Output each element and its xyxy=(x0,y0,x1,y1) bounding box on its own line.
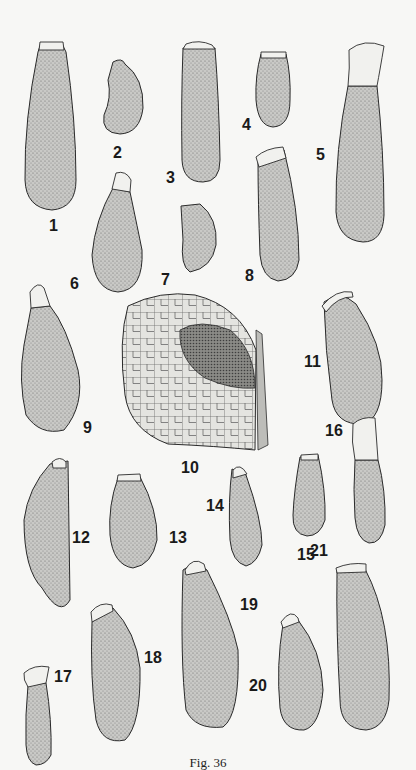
specimen-body xyxy=(258,150,299,281)
specimen-2 xyxy=(104,60,143,134)
specimen-label: 4 xyxy=(242,117,251,133)
specimen-body xyxy=(324,296,382,424)
specimen-label: 12 xyxy=(72,530,90,546)
specimen-label: 10 xyxy=(181,460,199,476)
specimen-body xyxy=(279,620,323,730)
specimen-9 xyxy=(21,285,79,432)
specimen-15 xyxy=(293,454,325,536)
specimen-cap xyxy=(52,459,66,469)
specimen-10 xyxy=(122,294,268,450)
specimen-body xyxy=(229,469,262,566)
specimen-4 xyxy=(256,52,290,127)
specimen-illustrations xyxy=(0,0,416,770)
specimen-body xyxy=(337,569,390,730)
specimen-13 xyxy=(110,474,157,568)
specimen-cap xyxy=(352,418,378,460)
specimen-7 xyxy=(181,204,216,272)
specimen-cap xyxy=(183,42,215,49)
specimen-cap xyxy=(30,285,50,308)
figure-plate: 123456789101112131415161718192021 Fig. 3… xyxy=(0,0,416,770)
specimen-cap xyxy=(112,172,131,192)
specimen-12 xyxy=(24,459,70,607)
specimen-5 xyxy=(336,43,384,242)
specimen-6 xyxy=(92,172,142,292)
specimen-cap xyxy=(261,52,286,58)
specimen-label: 13 xyxy=(169,530,187,546)
specimen-body xyxy=(26,683,51,765)
specimen-label: 7 xyxy=(161,272,170,288)
specimen-label: 11 xyxy=(304,354,321,370)
specimen-body xyxy=(181,204,216,272)
specimen-17 xyxy=(24,666,51,765)
specimen-cap xyxy=(348,43,384,86)
specimen-14 xyxy=(229,467,262,566)
specimen-21 xyxy=(336,564,389,731)
specimen-19 xyxy=(182,561,238,727)
specimen-label: 21 xyxy=(310,543,328,559)
specimen-cap xyxy=(301,454,318,460)
specimen-label: 6 xyxy=(70,276,79,292)
specimen-body xyxy=(182,48,220,182)
specimen-label: 1 xyxy=(49,218,58,234)
specimen-body xyxy=(21,306,79,431)
specimen-3 xyxy=(182,42,220,182)
specimen-body xyxy=(256,54,290,127)
specimen-cap xyxy=(39,42,64,50)
specimen-body xyxy=(182,565,238,727)
specimen-label: 19 xyxy=(240,597,258,613)
specimen-label: 18 xyxy=(144,650,162,666)
specimen-label: 5 xyxy=(316,147,325,163)
specimen-16 xyxy=(352,418,385,543)
specimen-8 xyxy=(256,147,299,281)
specimen-body xyxy=(293,455,325,536)
specimen-label: 16 xyxy=(325,423,343,439)
specimen-18 xyxy=(91,604,140,741)
specimen-20 xyxy=(279,614,323,730)
specimen-11 xyxy=(322,292,382,424)
figure-caption: Fig. 36 xyxy=(0,755,416,770)
membrane-fin xyxy=(256,330,268,450)
specimen-body xyxy=(92,188,142,292)
specimen-body xyxy=(92,608,141,741)
specimen-label: 20 xyxy=(249,678,267,694)
specimen-label: 3 xyxy=(166,170,175,186)
specimen-body xyxy=(24,461,70,607)
specimen-body xyxy=(25,46,76,210)
specimen-body xyxy=(104,60,143,134)
specimen-body xyxy=(110,477,157,568)
specimen-1 xyxy=(25,42,76,210)
specimen-label: 14 xyxy=(206,498,224,514)
specimen-label: 17 xyxy=(54,669,72,685)
specimen-body xyxy=(354,460,385,543)
specimen-label: 8 xyxy=(245,268,254,284)
specimen-label: 2 xyxy=(113,145,122,161)
specimen-label: 9 xyxy=(83,420,92,436)
specimen-cap xyxy=(117,474,141,481)
specimen-cap xyxy=(336,564,366,574)
specimen-body xyxy=(336,86,384,242)
